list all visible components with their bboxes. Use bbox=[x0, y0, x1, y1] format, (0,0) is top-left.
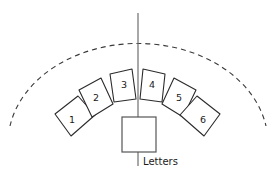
panel-5-label: 5 bbox=[176, 92, 182, 103]
letters-box[interactable] bbox=[122, 117, 156, 152]
panel-1-label: 1 bbox=[69, 114, 75, 125]
letters-caption: Letters bbox=[143, 156, 178, 167]
panel-3-label: 3 bbox=[121, 79, 127, 90]
panel-6-label: 6 bbox=[200, 114, 206, 125]
diagram-canvas: 123456 Letters bbox=[0, 0, 280, 176]
seating-arc-diagram: 123456 Letters bbox=[0, 0, 280, 176]
panel-4-label: 4 bbox=[149, 79, 155, 90]
panel-2-label: 2 bbox=[93, 92, 99, 103]
